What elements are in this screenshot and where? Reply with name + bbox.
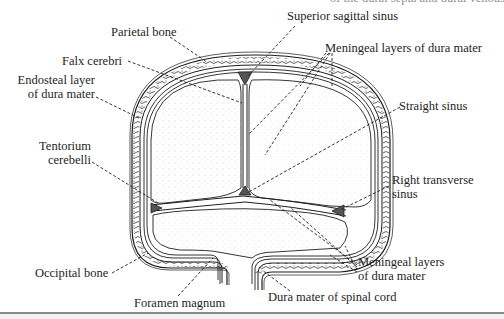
label-endosteal-layer-line1: Endosteal layer xyxy=(10,73,95,87)
label-tentorium-line1: Tentorium xyxy=(20,139,91,153)
right-transverse-sinus-shape xyxy=(332,205,344,217)
label-right-transverse-line2: sinus xyxy=(392,187,474,201)
label-occipital-bone: Occipital bone xyxy=(35,266,108,280)
label-meningeal-bottom-line1: Meningeal layers xyxy=(358,255,444,269)
label-meningeal-layers-top: Meningeal layers of dura mater xyxy=(325,41,482,55)
label-parietal-bone: Parietal bone xyxy=(111,25,177,39)
label-endosteal-layer-line2: of dura mater xyxy=(10,87,95,101)
label-endosteal-layer: Endosteal layer of dura mater xyxy=(10,73,95,101)
label-tentorium-line2: cerebelli xyxy=(20,153,91,167)
label-right-transverse-sinus: Right transverse sinus xyxy=(392,173,474,201)
label-tentorium-cerebelli: Tentorium cerebelli xyxy=(20,139,91,167)
label-superior-sagittal-sinus: Superior sagittal sinus xyxy=(287,9,398,23)
label-foramen-magnum: Foramen magnum xyxy=(134,296,225,310)
label-straight-sinus: Straight sinus xyxy=(399,99,467,113)
label-meningeal-bottom-line2: of dura mater xyxy=(358,269,444,283)
label-dura-spinal-cord: Dura mater of spinal cord xyxy=(268,290,396,304)
dura-mater-diagram: of the dural septa and dural venous sinu… xyxy=(0,0,504,319)
label-meningeal-layers-bottom: Meningeal layers of dura mater xyxy=(358,255,444,283)
figure-title-cut: of the dural septa and dural venous sinu… xyxy=(330,0,504,6)
label-falx-cerebri: Falx cerebri xyxy=(62,54,122,68)
cranial-compartments xyxy=(151,80,371,258)
page-divider-shadow xyxy=(0,314,504,319)
label-right-transverse-line1: Right transverse xyxy=(392,173,474,187)
